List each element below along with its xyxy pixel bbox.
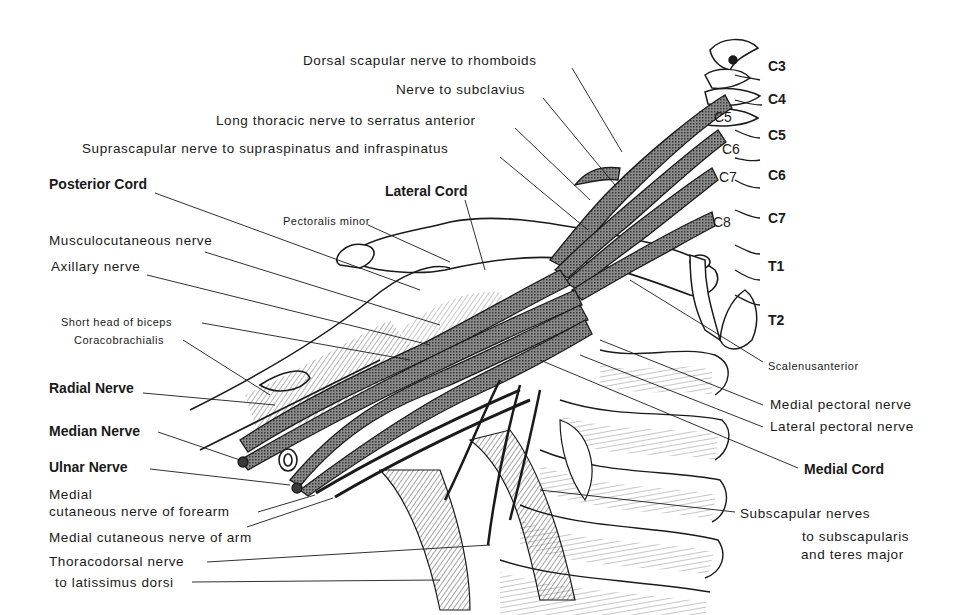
- label-subscapular-nerves-line2: to subscapularis: [802, 529, 909, 545]
- label-suprascapular-nerve: Suprascapular nerve to supraspinatus and…: [82, 141, 448, 157]
- brachial-plexus-diagram: Dorsal scapular nerve to rhomboids Nerve…: [0, 0, 967, 615]
- label-coracobrachialis: Coracobrachialis: [74, 332, 164, 348]
- label-radial-nerve: Radial Nerve: [49, 380, 134, 396]
- label-axillary-nerve: Axillary nerve: [51, 259, 140, 275]
- label-long-thoracic-nerve: Long thoracic nerve to serratus anterior: [216, 113, 476, 129]
- label-dorsal-scapular-nerve: Dorsal scapular nerve to rhomboids: [303, 53, 537, 69]
- label-musculocutaneous-nerve: Musculocutaneous nerve: [49, 233, 212, 249]
- lower-muscles: [380, 420, 592, 610]
- root-label-c7: C7: [719, 169, 737, 185]
- vertebra-label-t2: T2: [768, 312, 784, 328]
- label-nerve-to-subclavius: Nerve to subclavius: [396, 82, 525, 98]
- label-scalenus-anterior: Scalenusanterior: [768, 358, 859, 374]
- vertebra-label-t1: T1: [768, 258, 784, 274]
- vertebra-label-c5: C5: [768, 127, 786, 143]
- spine-contours: [735, 75, 762, 305]
- label-short-head-of-biceps: Short head of biceps: [61, 314, 172, 330]
- label-medial-cutaneous-forearm-line1: Medial: [49, 487, 92, 503]
- label-lateral-cord: Lateral Cord: [385, 183, 467, 199]
- label-medial-pectoral-nerve: Medial pectoral nerve: [770, 397, 912, 413]
- vertebra-label-c7: C7: [768, 210, 786, 226]
- label-medial-cutaneous-forearm-line2: cutaneous nerve of forearm: [49, 504, 230, 520]
- vertebra-label-c4: C4: [768, 91, 786, 107]
- label-median-nerve: Median Nerve: [49, 423, 140, 439]
- label-medial-cord: Medial Cord: [804, 461, 884, 477]
- clavicle-scapula: [337, 218, 718, 296]
- root-label-c6: C6: [722, 141, 740, 157]
- axillary-artery: [279, 449, 297, 471]
- root-label-c8: C8: [713, 214, 731, 230]
- label-lateral-pectoral-nerve: Lateral pectoral nerve: [770, 419, 914, 435]
- label-thoracodorsal-line1: Thoracodorsal nerve: [49, 554, 184, 570]
- label-medial-cutaneous-arm: Medial cutaneous nerve of arm: [49, 530, 252, 546]
- label-posterior-cord: Posterior Cord: [49, 176, 147, 192]
- label-thoracodorsal-line2: to latissimus dorsi: [55, 575, 174, 591]
- label-pectoralis-minor: Pectoralis minor: [283, 213, 370, 229]
- vertebra-label-c3: C3: [768, 58, 786, 74]
- label-subscapular-nerves-line3: and teres major: [801, 547, 904, 563]
- vertebra-label-c6: C6: [768, 167, 786, 183]
- label-ulnar-nerve: Ulnar Nerve: [49, 459, 128, 475]
- root-label-c5: C5: [714, 109, 732, 125]
- label-subscapular-nerves-line1: Subscapular nerves: [740, 506, 870, 522]
